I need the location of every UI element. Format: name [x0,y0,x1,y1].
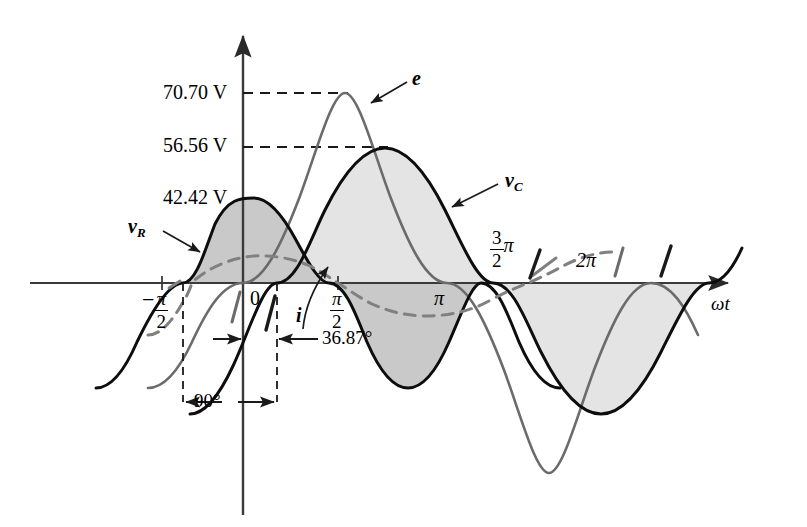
half-pi-numerator: π [330,289,344,311]
curve-label-vr-sub: R [137,225,146,240]
tick-label-two-pi: 2π [576,250,596,270]
two-pi-text: 2π [576,249,596,271]
waveform-figure: 70.70 V 56.56 V 42.42 V e vC vR i 0 − π … [0,0,807,527]
vc-fill-region [277,148,709,414]
dash-hint-e-left [232,292,240,322]
angle-label-36-87: 36.87° [322,328,372,347]
voltage-label-56-56: 56.56 V [163,135,227,155]
tick-label-origin: 0 [250,288,260,308]
tick-label-three-half-pi: 3 2 π [490,228,514,271]
neg-half-pi-denominator: 2 [154,311,168,332]
three-half-pi-numerator: 3 [490,228,504,250]
pointer-arrow-e [371,82,407,103]
voltage-label-42-42: 42.42 V [163,187,227,207]
tick-label-half-pi: π 2 [330,289,344,332]
angle-label-90: 90° [194,391,221,410]
voltage-label-70-70: 70.70 V [163,82,227,102]
tick-label-pi: π [434,288,444,308]
curve-label-vc-sub: C [514,179,523,194]
curve-label-vr-base: v [128,215,137,237]
dash-hint-vc-far-right [661,246,671,276]
minus-sign: − [142,287,154,312]
pointer-arrow-vr [163,231,200,252]
curve-label-vr: vR [128,216,146,239]
three-half-pi-symbol: π [504,234,514,256]
curve-label-i: i [296,305,302,325]
tick-label-neg-half-pi: − π 2 [142,289,168,332]
x-axis-label: ωt [711,294,730,313]
pointer-arrow-vc [452,184,498,207]
three-half-pi-denominator: 2 [490,250,504,271]
dash-hint-e-right [615,248,623,276]
waveform-svg [0,0,807,527]
dash-hint-vc-left [266,296,275,330]
neg-half-pi-numerator: π [154,289,168,311]
curve-label-e: e [412,68,421,88]
curve-label-vc-base: v [505,169,514,191]
curve-label-vc: vC [505,170,523,193]
